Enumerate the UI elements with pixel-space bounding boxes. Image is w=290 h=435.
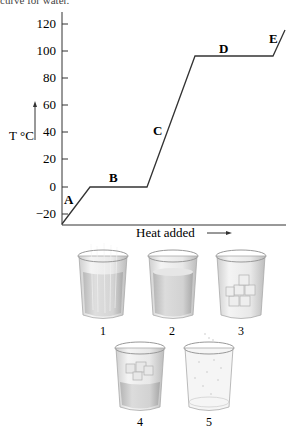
arrowhead-up-icon — [33, 101, 37, 107]
beaker-2 — [148, 250, 198, 319]
y-tick-60: 60 — [43, 97, 56, 112]
y-tick-labels: 120 100 80 60 40 20 0 −20 — [36, 16, 56, 221]
beaker-4-number: 4 — [137, 415, 143, 429]
segment-label-d: D — [219, 41, 228, 56]
y-tick-80: 80 — [43, 70, 56, 85]
arrowhead-right-icon — [226, 231, 232, 235]
y-tick-20: 20 — [43, 151, 56, 166]
y-axis-label-text: T °C — [9, 128, 34, 143]
x-axis-label-text: Heat added — [136, 225, 195, 240]
heating-curve-line — [62, 30, 285, 224]
segment-label-c: C — [153, 123, 162, 138]
beaker-1 — [78, 243, 128, 319]
heating-curve-figure: 120 100 80 60 40 20 0 −20 T °C Heat adde… — [0, 0, 290, 435]
beaker-1-number: 1 — [100, 324, 106, 338]
x-axis-label: Heat added — [136, 225, 232, 240]
beaker-2-number: 2 — [169, 324, 175, 338]
segment-label-a: A — [64, 192, 74, 207]
beaker-5 — [184, 333, 234, 410]
beaker-4 — [115, 342, 165, 411]
y-axis-label: T °C — [9, 101, 37, 143]
beaker-3-number: 3 — [238, 324, 244, 338]
y-tick-120: 120 — [37, 16, 57, 31]
segment-label-e: E — [269, 31, 278, 46]
beaker-5-number: 5 — [206, 415, 212, 429]
y-tick-0: 0 — [50, 179, 57, 194]
chart-axes — [62, 12, 286, 225]
y-tick-40: 40 — [43, 124, 56, 139]
beaker-3 — [216, 250, 266, 319]
y-tick-100: 100 — [37, 43, 57, 58]
y-tick-neg20: −20 — [36, 206, 56, 221]
segment-label-b: B — [109, 170, 118, 185]
